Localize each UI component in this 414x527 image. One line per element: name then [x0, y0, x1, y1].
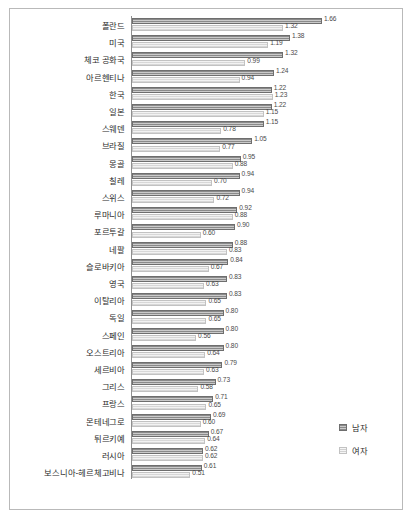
bar-group: 0.830.63 [132, 276, 322, 289]
bar-female [132, 163, 233, 169]
bar-value-label-female: 0.67 [211, 264, 223, 271]
bar-group: 0.920.88 [132, 207, 322, 220]
legend-item-male: 남자 [339, 421, 368, 433]
category-label: 그리스 [21, 383, 125, 391]
bar-value-label-female: 0.65 [208, 298, 220, 305]
bar-value-label-male: 0.80 [226, 343, 238, 350]
bar-value-label-male: 1.38 [292, 33, 304, 40]
bar-value-label-male: 0.83 [229, 291, 241, 298]
bar-value-label-male: 0.79 [224, 360, 236, 367]
bar-value-label-male: 0.73 [218, 377, 230, 384]
bar-female [132, 128, 221, 134]
category-label: 몬테네그로 [21, 418, 125, 426]
category-label: 세르비아 [21, 366, 125, 374]
bar-group: 1.240.94 [132, 70, 322, 83]
bar-female [132, 94, 273, 100]
bar-value-label-female: 0.51 [192, 470, 204, 477]
bar-female [132, 232, 201, 238]
bar-value-label-female: 0.60 [203, 230, 215, 237]
bar-value-label-male: 0.90 [237, 222, 249, 229]
bar-value-label-male: 0.94 [242, 188, 254, 195]
bar-group: 0.610.51 [132, 465, 322, 478]
category-label: 스웨덴 [21, 125, 125, 133]
bar-value-label-female: 0.64 [207, 350, 219, 357]
bar-male [132, 52, 283, 58]
bar-male [132, 414, 211, 420]
bar-value-label-female: 0.83 [229, 247, 241, 254]
category-label: 일본 [21, 108, 125, 116]
bar-value-label-female: 0.56 [198, 333, 210, 340]
bar-value-label-female: 0.64 [207, 436, 219, 443]
bar-value-label-female: 0.99 [247, 58, 259, 65]
bar-value-label-female: 0.88 [235, 161, 247, 168]
category-label: 몽골 [21, 160, 125, 168]
bar-group: 0.800.56 [132, 328, 322, 341]
bar-value-label-male: 1.32 [285, 50, 297, 57]
category-label: 칠레 [21, 177, 125, 185]
category-label: 보스니아-헤르체고비나 [21, 469, 125, 477]
bar-group: 1.221.23 [132, 87, 322, 100]
category-label: 네팔 [21, 246, 125, 254]
bar-group: 0.670.64 [132, 431, 322, 444]
bar-female [132, 283, 204, 289]
bar-value-label-female: 1.32 [285, 23, 297, 30]
bar-male [132, 104, 272, 110]
bar-group: 0.800.64 [132, 345, 322, 358]
category-label: 스위스 [21, 194, 125, 202]
bar-female [132, 214, 233, 220]
bar-female [132, 42, 268, 48]
bar-group: 0.800.65 [132, 310, 322, 323]
bar-group: 1.150.78 [132, 121, 322, 134]
legend-swatch-male-icon [339, 424, 347, 431]
bar-female [132, 421, 201, 427]
bar-group: 1.661.32 [132, 18, 322, 31]
category-label: 한국 [21, 91, 125, 99]
category-label: 독일 [21, 314, 125, 322]
bar-value-label-female: 0.78 [223, 126, 235, 133]
bar-value-label-male: 0.83 [229, 274, 241, 281]
bar-male [132, 465, 202, 471]
bar-group: 0.730.58 [132, 379, 322, 392]
bar-value-label-male: 1.66 [324, 16, 336, 23]
bar-value-label-female: 1.23 [275, 92, 287, 99]
bar-female [132, 472, 190, 478]
category-label: 루마니아 [21, 211, 125, 219]
bar-male [132, 242, 233, 248]
bar-male [132, 207, 237, 213]
bar-value-label-female: 1.19 [270, 40, 282, 47]
bar-value-label-male: 0.61 [204, 463, 216, 470]
category-label: 스페인 [21, 332, 125, 340]
bar-value-label-female: 0.63 [206, 281, 218, 288]
bar-value-label-male: 1.15 [266, 119, 278, 126]
bar-male [132, 35, 290, 41]
bar-value-label-female: 0.65 [208, 316, 220, 323]
bar-value-label-male: 0.71 [215, 394, 227, 401]
category-label: 포르투갈 [21, 228, 125, 236]
bar-value-label-female: 1.15 [266, 109, 278, 116]
legend-label-male: 남자 [352, 421, 368, 433]
bar-male [132, 431, 209, 437]
bar-group: 0.940.70 [132, 173, 322, 186]
bar-male [132, 224, 235, 230]
bar-group: 0.900.60 [132, 224, 322, 237]
bar-male [132, 156, 241, 162]
bar-group: 1.221.15 [132, 104, 322, 117]
bar-female [132, 369, 204, 375]
bar-group: 0.710.65 [132, 396, 322, 409]
legend-label-female: 여자 [352, 444, 368, 456]
bar-male [132, 396, 213, 402]
bar-group: 1.050.77 [132, 138, 322, 151]
bar-value-label-male: 1.24 [276, 68, 288, 75]
category-label: 체코 공화국 [21, 56, 125, 64]
bar-value-label-male: 0.94 [242, 171, 254, 178]
category-label: 튀르키예 [21, 435, 125, 443]
bar-female [132, 455, 203, 461]
bar-group: 0.880.83 [132, 242, 322, 255]
chart-legend: 남자 여자 [339, 421, 368, 467]
bar-group: 0.790.63 [132, 362, 322, 375]
bar-female [132, 300, 206, 306]
bar-value-label-female: 0.77 [222, 144, 234, 151]
bar-group: 1.320.99 [132, 52, 322, 65]
legend-item-female: 여자 [339, 444, 368, 456]
bar-group: 0.940.72 [132, 190, 322, 203]
